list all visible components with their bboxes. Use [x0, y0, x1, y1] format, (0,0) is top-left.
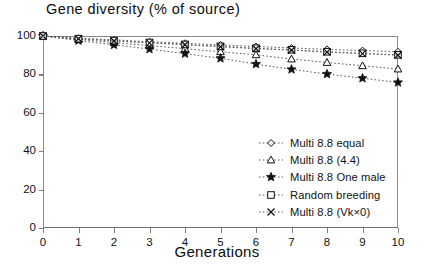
data-point-star	[287, 65, 296, 74]
legend-label: Multi 8.8 equal	[290, 137, 364, 149]
data-point-star	[266, 173, 275, 182]
legend-item-0[interactable]: Multi 8.8 equal	[258, 136, 386, 150]
legend-marker-diamond-icon	[258, 136, 284, 150]
legend-label: Multi 8.8 (Vk×0)	[290, 206, 370, 218]
legend-item-2[interactable]: Multi 8.8 One male	[258, 170, 386, 184]
x-tick-mark	[43, 228, 44, 233]
legend-label: Multi 8.8 One male	[290, 171, 386, 183]
x-tick-mark	[150, 228, 151, 233]
y-tick-label: 100	[2, 29, 36, 41]
x-tick-mark	[292, 228, 293, 233]
x-tick-mark	[363, 228, 364, 233]
chart-legend: Multi 8.8 equalMulti 8.8 (4.4)Multi 8.8 …	[258, 136, 386, 219]
data-point-square	[268, 191, 275, 198]
x-tick-mark	[256, 228, 257, 233]
y-tick-label: 0	[2, 221, 36, 233]
x-tick-mark	[398, 228, 399, 233]
y-tick-mark	[39, 74, 44, 75]
data-point-triangle	[267, 156, 275, 163]
legend-item-3[interactable]: Random breeding	[258, 188, 386, 202]
y-tick-mark	[39, 36, 44, 37]
legend-marker-square-icon	[258, 188, 284, 202]
legend-marker-triangle-icon	[258, 153, 284, 167]
y-tick-mark	[39, 113, 44, 114]
data-point-star	[322, 69, 331, 78]
chart-container: Gene diversity (% of source) 02040608010…	[0, 0, 434, 274]
legend-item-4[interactable]: Multi 8.8 (Vk×0)	[258, 205, 386, 219]
x-axis-title: Generations	[0, 243, 434, 260]
y-tick-mark	[39, 190, 44, 191]
legend-label: Multi 8.8 (4.4)	[290, 154, 360, 166]
data-point-diamond	[268, 140, 275, 147]
y-tick-label: 20	[2, 183, 36, 195]
legend-label: Random breeding	[290, 189, 380, 201]
legend-item-1[interactable]: Multi 8.8 (4.4)	[258, 153, 386, 167]
x-tick-mark	[185, 228, 186, 233]
x-tick-mark	[327, 228, 328, 233]
legend-marker-star-icon	[258, 170, 284, 184]
data-point-cross	[268, 208, 275, 215]
y-tick-label: 80	[2, 67, 36, 79]
chart-title: Gene diversity (% of source)	[46, 1, 240, 17]
legend-marker-cross-icon	[258, 205, 284, 219]
x-tick-mark	[114, 228, 115, 233]
y-tick-label: 60	[2, 106, 36, 118]
x-tick-mark	[221, 228, 222, 233]
series-1	[39, 32, 402, 72]
y-tick-label: 40	[2, 144, 36, 156]
data-point-triangle	[359, 62, 367, 69]
x-tick-mark	[79, 228, 80, 233]
data-point-star	[358, 73, 367, 82]
data-point-triangle	[288, 55, 296, 62]
data-point-star	[393, 78, 402, 87]
data-point-star	[251, 59, 260, 68]
y-tick-mark	[39, 151, 44, 152]
